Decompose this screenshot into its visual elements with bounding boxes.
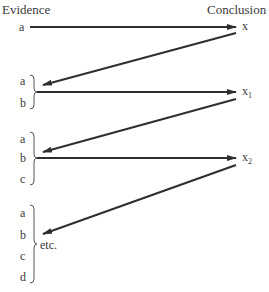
evidence-label: b (20, 97, 26, 109)
evidence-label: d (20, 271, 26, 283)
conclusion-label: x2 (242, 151, 252, 165)
conclusion-header: Conclusion (207, 3, 266, 16)
conclusion-label: x (242, 20, 248, 32)
brace-group3 (30, 132, 37, 185)
brace-group2 (30, 75, 37, 109)
conclusion-label: x1 (242, 85, 252, 99)
evidence-label: b (20, 152, 26, 164)
brace-group4 (30, 205, 37, 283)
evidence-label: a (20, 75, 25, 87)
evidence-label: b (20, 229, 26, 241)
etc-label: etc. (40, 239, 57, 251)
evidence-header: Evidence (2, 3, 50, 16)
arrow-x1-to-group3 (43, 99, 236, 152)
evidence-label: c (20, 250, 25, 262)
arrow-x2-to-group4 (43, 165, 236, 234)
evidence-label: a (20, 133, 25, 145)
evidence-label: a (19, 21, 24, 33)
evidence-label: a (20, 207, 25, 219)
evidence-label: c (20, 173, 25, 185)
arrow-x-to-group2 (43, 33, 236, 85)
